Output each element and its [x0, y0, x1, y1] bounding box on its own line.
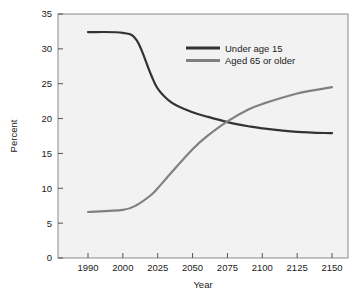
- x-tick-label: 2125: [287, 262, 308, 273]
- x-tick-label: 2025: [147, 262, 168, 273]
- y-tick-label: 35: [41, 8, 52, 19]
- plot-area: [58, 14, 348, 258]
- legend-label-2: Aged 65 or older: [225, 55, 295, 66]
- line-chart: 05101520253035 1990200020252050207521002…: [0, 0, 361, 295]
- x-tick-label: 2075: [217, 262, 238, 273]
- x-tick-label: 2050: [182, 262, 203, 273]
- x-tick-label: 1990: [77, 262, 98, 273]
- legend-label-1: Under age 15: [225, 43, 283, 54]
- y-tick-label: 15: [41, 148, 52, 159]
- y-tick-label: 5: [47, 218, 52, 229]
- y-tick-label: 25: [41, 78, 52, 89]
- y-tick-label: 30: [41, 43, 52, 54]
- y-axis-title: Percent: [8, 119, 19, 152]
- x-tick-label: 2150: [321, 262, 342, 273]
- x-tick-label: 2000: [112, 262, 133, 273]
- x-tick-label: 2100: [252, 262, 273, 273]
- y-tick-label: 10: [41, 183, 52, 194]
- y-tick-label: 20: [41, 113, 52, 124]
- x-axis-title: Year: [193, 279, 212, 290]
- chart-container: 05101520253035 1990200020252050207521002…: [0, 0, 361, 295]
- y-tick-label: 0: [47, 252, 52, 263]
